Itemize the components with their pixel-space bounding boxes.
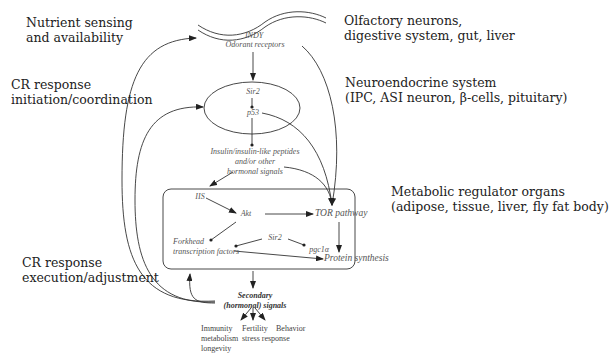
node-secondary-signals: Secondary (hormonal) signals (210, 291, 300, 311)
label-cr-initiation: CR response initiation/coordination (11, 77, 152, 107)
label-nutrient-sensing: Nutrient sensing and availability (26, 15, 133, 45)
node-sir2-box: Sir2 (263, 233, 287, 243)
node-p53: p53 (242, 108, 264, 118)
node-iis: IIS (192, 192, 208, 202)
label-metabolic: Metabolic regulator organs (adipose, tis… (391, 184, 609, 214)
node-protein-synthesis: Protein synthesis (324, 253, 404, 264)
label-cr-execution: CR response execution/adjustment (22, 255, 159, 285)
node-tor-pathway: TOR pathway (315, 208, 377, 219)
node-forkhead: Forkhead transcription factors (173, 237, 239, 257)
output-behavior: Behavior (276, 324, 305, 334)
label-neuroendocrine: Neuroendocrine system (IPC, ASI neuron, … (345, 75, 567, 105)
label-olfactory: Olfactory neurons, digestive system, gut… (344, 13, 515, 43)
node-insulin-signals: Insulin/insulin-like peptides and/or oth… (200, 147, 310, 177)
node-sir2-neuro: Sir2 (242, 87, 264, 97)
node-odorant-receptors: Odorant receptors (215, 40, 295, 50)
output-immunity: Immunity metabolism longevity (201, 324, 238, 354)
node-akt: Akt (237, 209, 255, 219)
